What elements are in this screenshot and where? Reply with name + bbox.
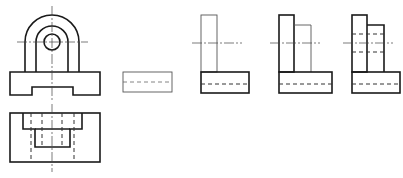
front-base-outline — [10, 72, 100, 95]
step3-boss — [294, 25, 311, 72]
front-view — [10, 6, 100, 100]
step4-boss — [367, 25, 384, 72]
drawing-canvas — [0, 0, 403, 178]
top-stepped-slot — [23, 113, 82, 147]
side-step-1 — [123, 72, 172, 92]
step2-upright — [201, 15, 217, 72]
side-step-4 — [343, 15, 400, 93]
step3-upright — [279, 15, 294, 72]
front-inner-arc — [36, 26, 68, 72]
step2-base — [201, 72, 249, 93]
step4-upright — [352, 15, 367, 72]
step3-base — [279, 72, 332, 93]
top-view — [10, 104, 100, 172]
step4-base — [352, 72, 400, 93]
side-step-2 — [192, 15, 249, 93]
side-step-3 — [270, 15, 332, 93]
